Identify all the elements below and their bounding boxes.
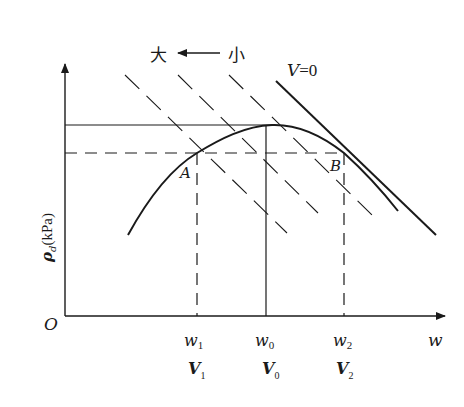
compaction-energy-line-medium — [178, 75, 318, 213]
direction-small-label: 小 — [228, 45, 245, 65]
origin-label: O — [44, 314, 58, 334]
tick-label-w0: w0 — [255, 331, 275, 351]
tick-label-w1: w1 — [184, 331, 203, 351]
compaction-diagram: A B 大 小 V=0 ρd(kPa) O w w1 w0 w2 V1 V0 V… — [0, 0, 464, 407]
compaction-energy-line-small — [229, 75, 373, 216]
svg-text:ρd(kPa): ρd(kPa) — [38, 213, 58, 263]
zero-air-voids-line — [276, 81, 436, 235]
x-axis-label: w — [428, 330, 443, 350]
zero-air-voids-label: V=0 — [287, 60, 317, 80]
tick-label-w2: w2 — [333, 331, 352, 351]
volume-label-v2: V2 — [336, 359, 353, 381]
point-a-label: A — [178, 164, 191, 182]
volume-label-v0: V0 — [262, 359, 279, 381]
compaction-energy-line-large — [125, 75, 287, 233]
point-b-label: B — [329, 157, 341, 175]
direction-large-label: 大 — [150, 45, 167, 65]
volume-label-v1: V1 — [188, 359, 205, 381]
compaction-curve — [128, 125, 398, 235]
y-axis-label: ρd(kPa) — [38, 213, 58, 263]
